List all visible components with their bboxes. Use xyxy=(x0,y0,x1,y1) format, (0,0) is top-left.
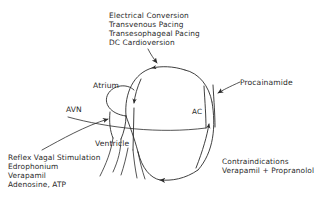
avn-label: AVN xyxy=(66,105,82,114)
loop-upper-right-arc xyxy=(185,70,212,102)
ventricle-label: Ventricle xyxy=(95,139,129,148)
leader-long-crossing xyxy=(68,117,206,130)
ac-line-left xyxy=(204,86,206,128)
avn-outline-left xyxy=(106,86,134,116)
leader-electrical-therapy xyxy=(148,49,157,63)
electrical-therapy-list: Electrical Conversion Transvenous Pacing… xyxy=(109,11,200,47)
contraindications-note: Contraindications Verapamil + Propranolo… xyxy=(222,157,314,175)
avn-down-arrow xyxy=(134,79,141,103)
branch-mid-left xyxy=(121,148,128,175)
vagal-and-drug-list: Reflex Vagal Stimulation Edrophonium Ver… xyxy=(8,153,100,189)
accessory-connection xyxy=(196,85,215,168)
ac-retrograde-arrow xyxy=(196,124,209,168)
avn-node xyxy=(106,86,134,139)
loop-bottom-arc xyxy=(160,170,198,180)
ac-label: AC xyxy=(192,107,202,116)
procainamide-annotation: Procainamide xyxy=(240,78,293,87)
branch-mid-right xyxy=(133,150,137,178)
loop-top-arc xyxy=(152,67,185,70)
loop-upper-left-arc xyxy=(126,68,152,116)
branch-right-outer xyxy=(138,152,145,179)
leader-procainamide xyxy=(218,82,240,93)
diagram-canvas: Electrical Conversion Transvenous Pacing… xyxy=(0,0,317,203)
avn-outline-bottom xyxy=(110,112,113,138)
atrium-label: Atrium xyxy=(93,81,119,90)
leader-lines xyxy=(42,49,240,150)
